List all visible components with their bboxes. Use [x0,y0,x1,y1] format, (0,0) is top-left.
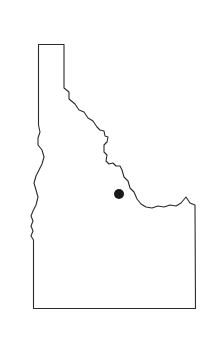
state-outline-map [0,0,210,343]
state-map-figure: Idaho [0,0,210,343]
city-marker-dot [114,189,124,199]
